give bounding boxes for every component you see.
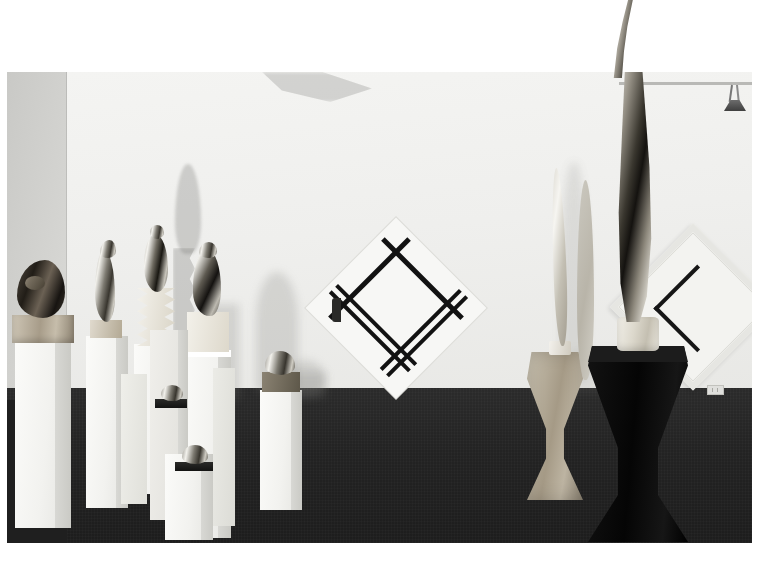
plinth-1-side	[55, 335, 71, 528]
sculpture-bird-1-base	[90, 320, 122, 338]
sculpture-head-left-base	[12, 315, 74, 343]
plinth-9-rear[interactable]	[121, 374, 147, 504]
gallery-photograph	[7, 72, 752, 543]
sculpture-egg-1[interactable]	[161, 385, 183, 401]
sculpture-egg-2[interactable]	[182, 445, 208, 464]
plinth-8-face	[213, 368, 235, 526]
sculpture-bird-2-head	[150, 225, 164, 239]
sculpture-bird-1-head	[100, 240, 116, 258]
photo-white-border	[0, 0, 765, 567]
sculpture-bird-space-base	[617, 317, 659, 351]
artwork-mondrian-edge-tab	[332, 298, 341, 322]
sculpture-bird-3[interactable]	[193, 250, 221, 316]
sculpture-bird-space-overhang	[609, 0, 643, 78]
plinth-9-face	[121, 374, 147, 504]
sculpture-egg-3[interactable]	[265, 351, 295, 375]
artwork-mondrian-line-v3	[386, 295, 468, 377]
sculpture-bird-3-head	[199, 242, 217, 258]
sculpture-head-left-highlight	[25, 276, 45, 290]
sculpture-egg-3-base	[262, 372, 300, 392]
plinth-8-rear[interactable]	[213, 368, 235, 526]
artwork-cross-line-h	[653, 306, 700, 353]
plinth-1[interactable]	[15, 335, 71, 528]
artwork-mondrian-lozenge[interactable]	[332, 244, 460, 372]
plinth-7[interactable]	[260, 390, 302, 510]
sculpture-bird-3-base	[187, 312, 229, 352]
artwork-cross-line-v	[653, 265, 700, 312]
plinth-7-side	[291, 390, 302, 510]
wall-outlet-icon	[707, 385, 724, 395]
artwork-mondrian-line-v2	[380, 289, 462, 371]
